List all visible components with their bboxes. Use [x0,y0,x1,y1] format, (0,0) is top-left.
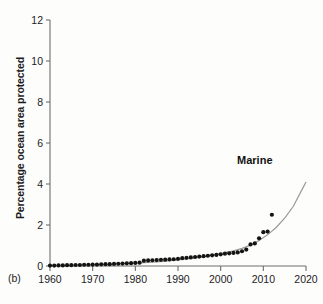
data-point [253,241,257,245]
data-point [210,253,214,257]
data-point [223,252,227,256]
data-point [206,254,210,258]
data-point [231,251,235,255]
data-point [146,258,150,262]
x-tick-label: 1970 [81,273,105,285]
data-point [99,262,103,266]
data-point [184,256,188,260]
data-point [142,259,146,263]
data-point [244,248,248,252]
data-point [248,242,252,246]
y-tick-label: 0 [37,260,43,272]
data-point [261,230,265,234]
x-tick-label: 2010 [252,273,276,285]
x-tick-label: 1960 [38,273,62,285]
data-point [120,261,124,265]
data-point [116,262,120,266]
data-point [125,261,129,265]
data-point [95,262,99,266]
x-tick-label: 2000 [209,273,233,285]
data-point [103,262,107,266]
data-point [266,229,270,233]
data-point [163,258,167,262]
data-point [159,258,163,262]
y-tick-label: 8 [37,96,43,108]
data-point [56,263,60,267]
y-tick-label: 12 [31,14,43,26]
y-tick-label: 2 [37,219,43,231]
data-point [150,258,154,262]
data-point [202,254,206,258]
data-point [69,263,73,267]
data-point [61,263,65,267]
y-tick-label: 4 [37,178,43,190]
data-point [48,263,52,267]
data-point [82,263,86,267]
data-point [74,263,78,267]
data-point [65,263,69,267]
data-point [108,262,112,266]
data-point [172,257,176,261]
chart-figure: Percentage ocean area protected (b) 0246… [0,0,323,304]
data-point [155,258,159,262]
data-point [193,255,197,259]
y-tick-label: 10 [31,55,43,67]
data-point [86,263,90,267]
data-point [78,263,82,267]
x-tick-label: 2020 [294,273,318,285]
data-point [189,255,193,259]
data-point [270,213,274,217]
data-point [112,262,116,266]
marine-trend-curve [50,182,306,266]
data-point [214,253,218,257]
x-axis-ticks: 1960197019801990200020102020 [38,266,318,285]
x-tick-label: 1980 [124,273,148,285]
data-point [91,262,95,266]
data-point [138,261,142,265]
data-point [240,249,244,253]
data-point [219,252,223,256]
data-point [133,261,137,265]
marine-data-points [48,213,274,268]
data-point [257,236,261,240]
data-point [129,261,133,265]
series-label-marine: Marine [237,154,272,166]
data-point [176,257,180,261]
data-point [197,254,201,258]
data-point [167,257,171,261]
data-point [52,263,56,267]
data-point [236,250,240,254]
data-point [180,256,184,260]
y-tick-label: 6 [37,137,43,149]
data-point [227,251,231,255]
x-tick-label: 1990 [166,273,190,285]
scatter-plot-canvas: 024681012 1960197019801990200020102020 M… [0,0,323,304]
y-axis-ticks: 024681012 [31,14,50,272]
